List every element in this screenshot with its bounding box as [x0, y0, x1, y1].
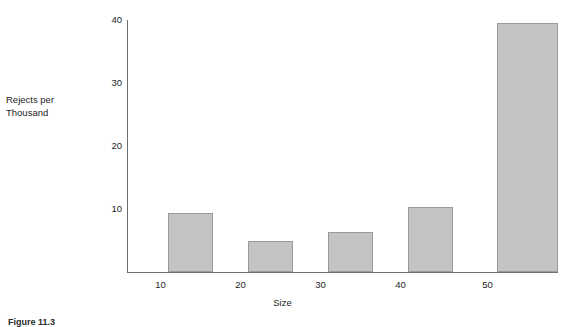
plot-area — [127, 20, 558, 272]
x-tick-label-20: 20 — [219, 279, 262, 290]
bar-size-30 — [328, 232, 373, 272]
y-tick-label-30: 30 — [98, 78, 122, 88]
x-tick-label-50: 50 — [466, 279, 509, 290]
bar-size-50 — [497, 23, 558, 272]
figure-caption: Figure 11.3 — [8, 317, 55, 327]
x-axis-title: Size — [0, 297, 565, 308]
bar-size-20 — [248, 241, 293, 273]
x-axis-line — [127, 272, 558, 273]
y-tick-label-20: 20 — [98, 141, 122, 151]
x-tick-label-10: 10 — [139, 279, 182, 290]
x-tick-label-30: 30 — [299, 279, 342, 290]
y-tick-label-40: 40 — [98, 15, 122, 25]
y-tick-label-10: 10 — [98, 204, 122, 214]
y-axis-title: Rejects per Thousand — [6, 93, 116, 119]
bar-size-10 — [168, 213, 213, 272]
x-tick-label-40: 40 — [379, 279, 422, 290]
bar-size-40 — [408, 207, 453, 273]
